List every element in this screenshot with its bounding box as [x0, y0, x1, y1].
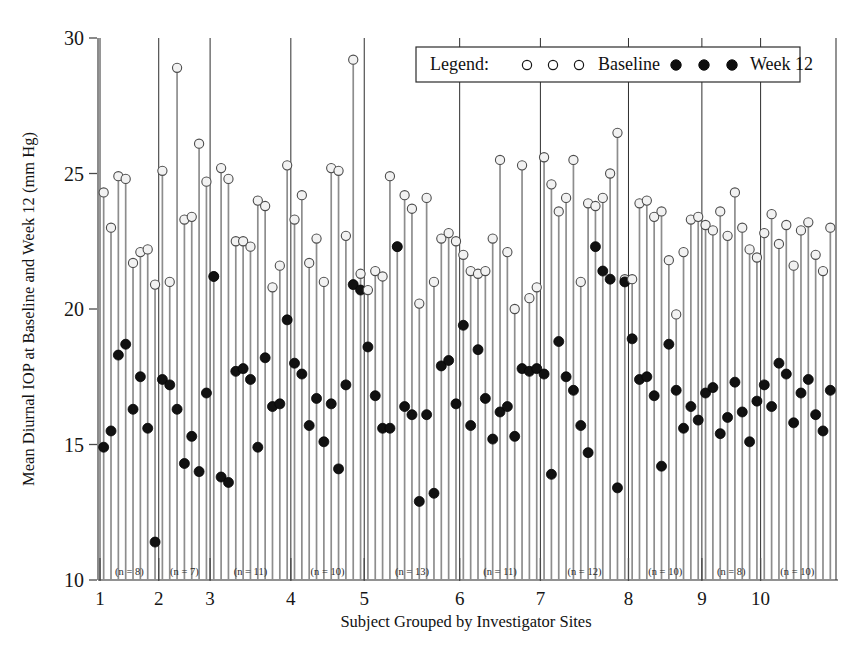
week12-point [679, 423, 689, 433]
week12-point [165, 380, 175, 390]
baseline-point [694, 212, 703, 221]
baseline-point [217, 163, 226, 172]
x-tick-label-site-5: 5 [359, 588, 369, 609]
group-size-label-site-4: (n = 10) [311, 566, 345, 578]
baseline-point [481, 266, 490, 275]
baseline-point [378, 272, 387, 281]
x-tick-label-site-4: 4 [286, 588, 296, 609]
week12-point [539, 369, 549, 379]
baseline-point [782, 220, 791, 229]
baseline-point [606, 169, 615, 178]
group-size-label-site-9: (n = 8) [717, 566, 746, 578]
week12-point [458, 320, 468, 330]
week12-point [715, 429, 725, 439]
week12-point [642, 372, 652, 382]
week12-point [187, 431, 197, 441]
baseline-point [569, 155, 578, 164]
baseline-point [261, 201, 270, 210]
data-points-layer [99, 55, 836, 580]
baseline-point [246, 242, 255, 251]
baseline-point [495, 155, 504, 164]
baseline-point [811, 250, 820, 259]
week12-point [811, 410, 821, 420]
week12-point [612, 483, 622, 493]
y-tick-label: 20 [64, 298, 84, 320]
baseline-point [194, 139, 203, 148]
baseline-point [305, 258, 314, 267]
baseline-point [561, 193, 570, 202]
week12-point [554, 337, 564, 347]
baseline-point [312, 234, 321, 243]
week12-point [290, 358, 300, 368]
week12-point [444, 355, 454, 365]
week12-point [282, 315, 292, 325]
week12-point [260, 353, 270, 363]
x-tick-label-site-7: 7 [536, 588, 546, 609]
week12-point [451, 399, 461, 409]
group-size-label-site-3: (n = 11) [234, 566, 268, 578]
baseline-point [613, 128, 622, 137]
baseline-point [752, 253, 761, 262]
y-tick-label: 10 [64, 569, 84, 591]
week12-point [789, 418, 799, 428]
baseline-point [723, 231, 732, 240]
week12-point [730, 377, 740, 387]
baseline-point [664, 256, 673, 265]
week12-point [686, 402, 696, 412]
week12-point [723, 412, 733, 422]
week12-point [113, 350, 123, 360]
week12-point [297, 369, 307, 379]
week12-point [172, 404, 182, 414]
baseline-point [143, 245, 152, 254]
baseline-point [576, 277, 585, 286]
baseline-point [341, 231, 350, 240]
baseline-point [224, 174, 233, 183]
baseline-point [679, 247, 688, 256]
week12-point [590, 242, 600, 252]
baseline-point [642, 196, 651, 205]
baseline-point [767, 210, 776, 219]
week12-point [106, 426, 116, 436]
week12-point [657, 461, 667, 471]
filled-circle-icon [699, 60, 709, 70]
legend-week12-label: Week 12 [750, 54, 813, 74]
baseline-point [716, 207, 725, 216]
week12-point [326, 399, 336, 409]
week12-point [245, 374, 255, 384]
week12-point [568, 385, 578, 395]
baseline-point [268, 283, 277, 292]
week12-point [253, 442, 263, 452]
week12-point [598, 266, 608, 276]
baseline-point [334, 166, 343, 175]
baseline-point [451, 237, 460, 246]
week12-point [334, 464, 344, 474]
baseline-point [672, 310, 681, 319]
week12-point [583, 448, 593, 458]
week12-point [825, 385, 835, 395]
y-tick-label: 15 [64, 434, 84, 456]
group-size-label-site-10: (n = 10) [780, 566, 814, 578]
baseline-point [165, 277, 174, 286]
baseline-point [730, 188, 739, 197]
x-tick-label-site-10: 10 [751, 588, 770, 609]
week12-point [135, 372, 145, 382]
baseline-point [796, 226, 805, 235]
x-tick-label-site-8: 8 [624, 588, 634, 609]
week12-point [480, 393, 490, 403]
baseline-point [407, 204, 416, 213]
y-tick-label: 30 [64, 27, 84, 49]
open-circle-icon [574, 60, 583, 69]
baseline-point [774, 239, 783, 248]
week12-point [561, 372, 571, 382]
week12-point [304, 421, 314, 431]
baseline-point [290, 215, 299, 224]
baseline-point [275, 261, 284, 270]
week12-point [818, 426, 828, 436]
baseline-point [628, 275, 637, 284]
baseline-point [554, 207, 563, 216]
week12-point [759, 380, 769, 390]
x-tick-label-site-9: 9 [697, 588, 707, 609]
filled-circle-icon [727, 60, 737, 70]
week12-point [312, 393, 322, 403]
baseline-point [400, 191, 409, 200]
